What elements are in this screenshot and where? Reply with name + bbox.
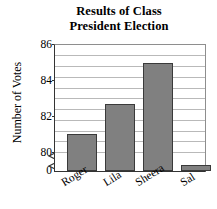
plot-area [54,44,206,172]
bar-sal[interactable] [181,165,211,171]
bar-sheera[interactable] [143,63,173,171]
chart-title-line-2: President Election [44,19,194,34]
chart-title-line-1: Results of Class [44,4,194,19]
y-tick-label-86: 86 [26,39,52,50]
y-tick-label-82: 82 [26,111,52,122]
bar-chart: Results of Class President Election Numb… [0,0,217,209]
bar-lila[interactable] [105,104,135,171]
y-tick-label-84: 84 [26,75,52,86]
x-tick-label-sal: Sal [178,170,197,188]
bar-series [55,45,205,171]
chart-title: Results of Class President Election [44,4,194,33]
y-axis-ticks: 86 84 82 80 0 [22,0,52,209]
